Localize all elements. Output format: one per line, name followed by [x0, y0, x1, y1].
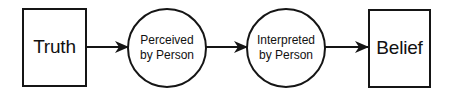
truth-to-belief-flow-diagram: Truth Perceived by Person Interpreted by…	[0, 0, 453, 94]
diagram-canvas	[0, 0, 453, 94]
interpreted-circle	[247, 9, 325, 87]
perceived-circle	[128, 9, 206, 87]
belief-box	[369, 10, 430, 87]
truth-box	[23, 9, 86, 86]
